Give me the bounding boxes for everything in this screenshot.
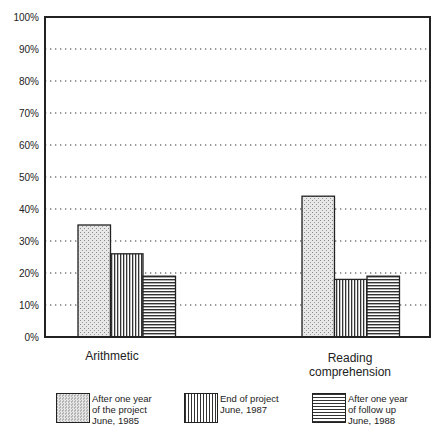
legend-label-3: After one year of follow up June, 1988 (348, 393, 408, 426)
legend-label-2: End of project June, 1987 (220, 393, 279, 415)
y-tick-label: 10% (19, 300, 39, 311)
category-label-reading-1: Reading (328, 351, 373, 365)
category-label-arithmetic: Arithmetic (85, 349, 138, 363)
y-axis-ticks: 0%10%20%30%40%50%60%70%80%90%100% (13, 12, 39, 343)
bar (111, 254, 144, 337)
y-tick-label: 20% (19, 268, 39, 279)
legend-swatch-horizontal (312, 393, 346, 423)
legend-swatch-vertical (184, 393, 218, 423)
y-tick-label: 80% (19, 76, 39, 87)
legend-swatch-stipple (56, 393, 90, 423)
y-tick-label: 100% (13, 12, 39, 23)
bars (78, 196, 400, 337)
category-label-reading-2: comprehension (309, 365, 391, 379)
y-tick-label: 60% (19, 140, 39, 151)
bar (335, 279, 368, 337)
y-tick-label: 30% (19, 236, 39, 247)
legend-label-1: After one year of the project June, 1985 (92, 393, 152, 426)
bar (367, 276, 400, 337)
y-tick-label: 90% (19, 44, 39, 55)
bar (302, 196, 335, 337)
bar (143, 276, 176, 337)
bar-chart: 0%10%20%30%40%50%60%70%80%90%100% Arithm… (0, 0, 444, 435)
y-tick-label: 0% (25, 332, 40, 343)
bar (78, 225, 111, 337)
y-tick-label: 50% (19, 172, 39, 183)
y-tick-label: 40% (19, 204, 39, 215)
y-tick-label: 70% (19, 108, 39, 119)
